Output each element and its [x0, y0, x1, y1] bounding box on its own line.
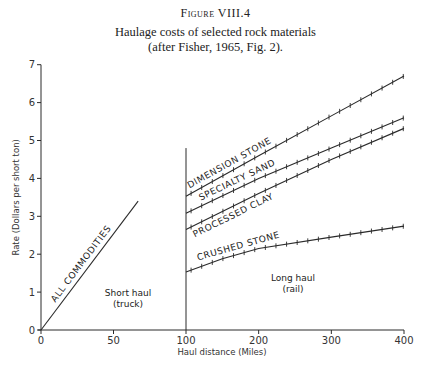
- y-tick-label: 3: [29, 211, 35, 222]
- x-tick-label: 100: [176, 335, 195, 346]
- rail-label: (rail): [282, 284, 303, 294]
- truck-label: (truck): [113, 299, 143, 309]
- y-tick-label: 0: [29, 325, 35, 336]
- series-labels: Short haul(truck)Long haul(rail)ALL COMM…: [49, 135, 315, 309]
- y-axis-title: Rate (Dollars per short ton): [11, 139, 21, 255]
- x-tick-label: 200: [249, 335, 268, 346]
- all-commodities-label: ALL COMMODITIES: [49, 223, 113, 303]
- y-tick-label: 5: [29, 135, 35, 146]
- long-haul-label: Long haul: [271, 273, 315, 283]
- x-tick-label: 400: [394, 335, 413, 346]
- x-tick-label: 0: [38, 335, 44, 346]
- crushed-stone-label: CRUSHED STONE: [196, 230, 281, 263]
- y-tick-label: 6: [29, 97, 35, 108]
- y-tick-label: 7: [29, 59, 35, 70]
- y-tick-label: 2: [29, 249, 35, 260]
- haulage-cost-chart: 01234567Rate (Dollars per short ton)0501…: [0, 0, 431, 369]
- short-haul-label: Short haul: [105, 288, 151, 298]
- x-tick-label: 50: [107, 335, 120, 346]
- y-tick-label: 4: [29, 173, 35, 184]
- y-tick-label: 1: [29, 287, 35, 298]
- x-axis-title: Haul distance (Miles): [177, 347, 266, 357]
- x-tick-label: 300: [322, 335, 341, 346]
- series-lines: [41, 74, 404, 330]
- all-commodities-line: [41, 201, 138, 330]
